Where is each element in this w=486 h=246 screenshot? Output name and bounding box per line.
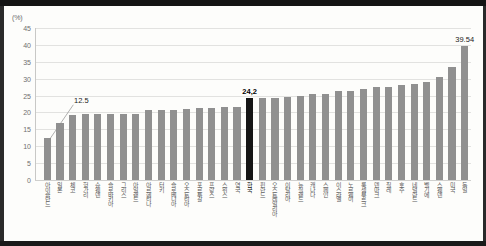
bar[interactable] xyxy=(233,107,240,180)
bar[interactable] xyxy=(461,46,468,180)
x-axis-category-label: 일본 xyxy=(57,182,63,192)
value-callout: 24,2 xyxy=(242,87,257,96)
chart-canvas: (%) 051015202530354045 12.524,239.54 아이슬… xyxy=(4,6,483,241)
bar[interactable] xyxy=(423,82,430,180)
x-axis-category-label: 헝가리 xyxy=(82,182,88,196)
x-axis-category-label: 이스라엘 xyxy=(335,182,341,201)
bar[interactable] xyxy=(69,115,76,180)
value-callout: 12.5 xyxy=(74,96,89,105)
x-axis-category-label: 룩셈부르크 xyxy=(361,182,367,206)
x-axis-category-labels: 아이슬란드일본체코헝가리슈웨덴슬로바키아그리스아일랜드아르헨티나터키슬로베니아오… xyxy=(35,182,471,242)
value-callout: 39.54 xyxy=(455,35,474,44)
bar[interactable] xyxy=(82,114,89,180)
x-axis-category-label: 슈웨덴 xyxy=(95,182,101,196)
y-axis-tick: 25 xyxy=(23,92,31,99)
bar[interactable] xyxy=(132,114,139,180)
y-axis-tick-labels: 051015202530354045 xyxy=(4,28,35,180)
bar[interactable] xyxy=(183,109,190,180)
bar[interactable] xyxy=(398,85,405,180)
bar[interactable] xyxy=(246,98,253,180)
bar[interactable] xyxy=(411,84,418,180)
bar[interactable] xyxy=(385,87,392,180)
bar[interactable] xyxy=(107,114,114,180)
bar[interactable] xyxy=(208,108,215,180)
x-axis-category-label: 슬로바키아 xyxy=(108,182,114,206)
x-axis-category-label: 아이슬란드 xyxy=(44,182,50,206)
bar[interactable] xyxy=(196,108,203,180)
plot-area: 12.524,239.54 xyxy=(35,28,471,180)
bar[interactable] xyxy=(120,114,127,180)
bar[interactable] xyxy=(436,77,443,180)
x-axis-category-label: 아르헨티나 xyxy=(146,182,152,206)
x-axis-category-label: 미국 xyxy=(449,182,455,192)
y-axis-tick: 15 xyxy=(23,126,31,133)
x-axis-category-label: 독일 xyxy=(462,182,468,192)
y-axis-tick: 35 xyxy=(23,58,31,65)
bar[interactable] xyxy=(271,98,278,180)
x-axis-category-label: 호주 xyxy=(398,182,404,192)
bar[interactable] xyxy=(44,138,51,180)
bar[interactable] xyxy=(297,96,304,180)
x-axis-category-label: 핀란드 xyxy=(259,182,265,196)
x-axis-category-label: 이탈리아 xyxy=(285,182,291,201)
bar[interactable] xyxy=(347,91,354,180)
bar[interactable] xyxy=(309,94,316,180)
bar[interactable] xyxy=(373,87,380,180)
x-axis-category-label: 체코 xyxy=(70,182,76,192)
x-axis-category-label: 프랑스 xyxy=(209,182,215,196)
bar[interactable] xyxy=(360,89,367,180)
x-axis-category-label: 노르웨이 xyxy=(348,182,354,201)
x-axis-category-label: 캐나다 xyxy=(310,182,316,196)
y-axis-tick: 30 xyxy=(23,75,31,82)
gridline xyxy=(35,180,471,181)
x-axis-category-label: 터키 xyxy=(158,182,164,192)
x-axis-category-label: 덴마크 xyxy=(373,182,379,196)
x-axis-category-label: 포르투갈 xyxy=(196,182,202,201)
bar[interactable] xyxy=(221,107,228,180)
bar[interactable] xyxy=(56,123,63,180)
y-axis-tick: 20 xyxy=(23,109,31,116)
bar[interactable] xyxy=(335,91,342,180)
x-axis-category-label: 그리스 xyxy=(120,182,126,196)
bar[interactable] xyxy=(259,98,266,180)
x-axis-category-label: 오스트레일리아 xyxy=(272,182,278,216)
bar[interactable] xyxy=(448,67,455,180)
x-axis-category-label: 벨기에 xyxy=(424,182,430,196)
bar[interactable] xyxy=(322,94,329,180)
x-axis-category-label: 칠레 xyxy=(386,182,392,192)
x-axis-category-label: 한국 xyxy=(247,182,253,192)
x-axis-category-label: 영국 xyxy=(234,182,240,192)
bar[interactable] xyxy=(94,114,101,180)
x-axis-category-label: 스위스 xyxy=(221,182,227,196)
y-axis-unit-label: (%) xyxy=(12,14,22,21)
x-axis-category-label: 스페인 xyxy=(323,182,329,196)
y-axis-tick: 5 xyxy=(27,160,31,167)
x-axis-category-label: 오스트리아 xyxy=(183,182,189,206)
x-axis-category-label: 슬로베니아 xyxy=(171,182,177,206)
y-axis-tick: 10 xyxy=(23,143,31,150)
x-axis-category-label: 아일랜드 xyxy=(133,182,139,201)
bar[interactable] xyxy=(170,110,177,180)
x-axis-category-label: 네덜란드 xyxy=(411,182,417,201)
bar[interactable] xyxy=(284,97,291,180)
bar[interactable] xyxy=(145,110,152,180)
y-axis-tick: 45 xyxy=(23,25,31,32)
bar-series xyxy=(35,28,471,180)
bar[interactable] xyxy=(158,110,165,180)
y-axis-tick: 40 xyxy=(23,41,31,48)
x-axis-category-label: 스웨덴 xyxy=(436,182,442,196)
y-axis-tick: 0 xyxy=(27,177,31,184)
x-axis-category-label: 뉴질랜드 xyxy=(297,182,303,201)
